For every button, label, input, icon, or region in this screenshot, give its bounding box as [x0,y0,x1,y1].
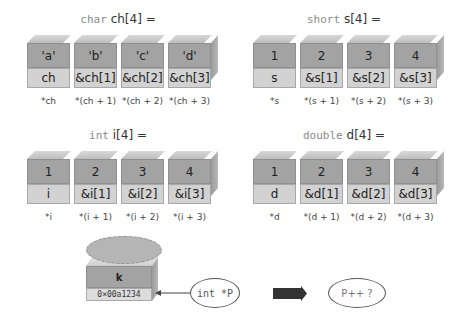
pointer-declaration-oval: int *P [190,278,240,308]
memory-ellipse [86,236,162,264]
right-arrow-icon [273,286,307,301]
address-box: 0×00a1234 [86,288,152,301]
question-oval: P++ ? [328,278,386,308]
pointer-arrow-line [155,288,191,298]
pointer-demo: k 0×00a1234 int *P P++ ? [0,0,472,333]
variable-box: k [86,266,152,288]
